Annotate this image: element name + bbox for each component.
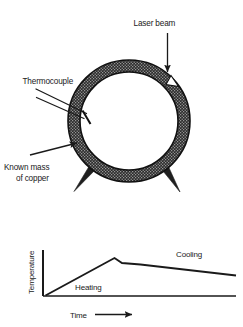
figure-canvas: Laser beam Thermocouple Known mass of co…	[0, 0, 243, 327]
heating-label: Heating	[75, 283, 102, 292]
figure-root: Laser beam Thermocouple Known mass of co…	[0, 0, 243, 327]
apparatus-group: Laser beam Thermocouple Known mass of co…	[4, 19, 190, 193]
y-axis-label: Temperature	[27, 250, 36, 294]
known-mass-label-line1: Known mass	[4, 163, 49, 172]
thermocouple-label: Thermocouple	[23, 77, 74, 86]
temperature-time-chart: Temperature Time Heating Cooling	[27, 250, 236, 320]
x-axis-label: Time	[70, 311, 88, 320]
laser-beam-label: Laser beam	[134, 19, 176, 28]
cooling-label: Cooling	[176, 250, 202, 259]
known-mass-label-line2: of copper	[16, 174, 49, 183]
known-mass-arrow	[30, 143, 77, 155]
